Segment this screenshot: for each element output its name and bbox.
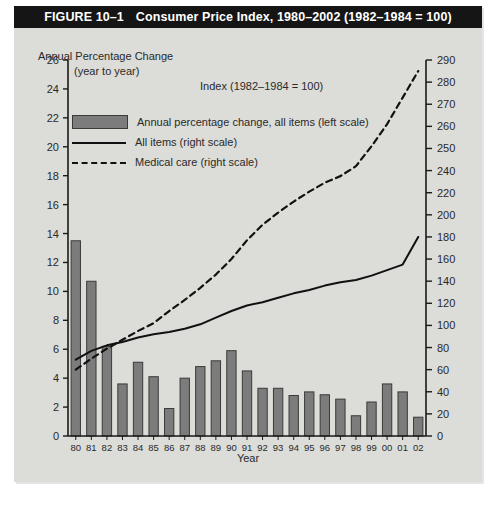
x-axis-tick-label: 90 <box>226 442 237 453</box>
bar <box>273 388 282 436</box>
x-axis-tick-label: 89 <box>211 442 222 453</box>
bar <box>165 409 174 436</box>
bar <box>71 241 80 436</box>
bar <box>87 281 96 436</box>
bar <box>133 362 142 436</box>
bar <box>102 346 111 436</box>
x-axis-tick-label: 87 <box>179 442 190 453</box>
bar <box>398 392 407 436</box>
medical-care-line <box>76 71 418 370</box>
bar <box>227 351 236 436</box>
right-axis-tick-label: 260 <box>437 120 455 132</box>
chart-svg: 02468101214161820222426 0204060801001201… <box>14 28 482 482</box>
right-axis-group: 0204060801001201401601802002202402502602… <box>426 54 455 442</box>
x-axis-tick-label: 99 <box>366 442 377 453</box>
left-axis-tick-label: 12 <box>47 256 59 268</box>
left-axis-tick-label: 24 <box>47 83 59 95</box>
bar <box>180 378 189 436</box>
bar <box>336 399 345 436</box>
x-axis-tick-label: 81 <box>86 442 97 453</box>
plot-area: Annual Percentage Change (year to year) … <box>14 28 482 482</box>
figure-title-text: FIGURE 10–1Consumer Price Index, 1980–20… <box>44 10 451 24</box>
bar <box>289 396 298 436</box>
right-axis-tick-label: 220 <box>437 187 455 199</box>
x-axis-tick-label: 93 <box>273 442 284 453</box>
bar <box>211 361 220 436</box>
left-axis-group: 02468101214161820222426 <box>47 54 68 442</box>
all-items-line <box>76 237 418 360</box>
right-axis-tick-label: 140 <box>437 275 455 287</box>
bar <box>242 371 251 436</box>
right-axis-tick-label: 180 <box>437 231 455 243</box>
left-axis-tick-label: 26 <box>47 54 59 66</box>
x-axis-tick-label: 00 <box>382 442 393 453</box>
bar <box>414 417 423 436</box>
right-axis-tick-label: 200 <box>437 209 455 221</box>
right-axis-tick-label: 120 <box>437 297 455 309</box>
lines-group <box>76 71 418 370</box>
bar <box>118 384 127 436</box>
bar <box>367 402 376 436</box>
figure-panel: FIGURE 10–1Consumer Price Index, 1980–20… <box>14 6 482 482</box>
x-axis-tick-label: 86 <box>164 442 175 453</box>
bar <box>305 392 314 436</box>
x-axis-group: 8081828384858687888990919293949596979899… <box>68 436 426 453</box>
x-axis-tick-label: 88 <box>195 442 206 453</box>
x-axis-tick-label: 82 <box>102 442 113 453</box>
bar <box>258 388 267 436</box>
right-axis-tick-label: 290 <box>437 54 455 66</box>
x-axis-tick-label: 84 <box>133 442 144 453</box>
right-axis-tick-label: 100 <box>437 319 455 331</box>
right-axis-tick-label: 240 <box>437 165 455 177</box>
figure-title-bar: FIGURE 10–1Consumer Price Index, 1980–20… <box>14 6 482 28</box>
right-axis-tick-label: 160 <box>437 253 455 265</box>
x-axis-tick-label: 01 <box>397 442 408 453</box>
bar <box>320 395 329 436</box>
bar <box>196 367 205 436</box>
figure-title: Consumer Price Index, 1980–2002 (1982–19… <box>136 10 452 24</box>
x-axis-tick-label: 97 <box>335 442 346 453</box>
right-axis-tick-label: 60 <box>437 364 449 376</box>
figure-number: FIGURE 10–1 <box>44 10 124 24</box>
right-axis-tick-label: 40 <box>437 386 449 398</box>
x-axis-tick-label: 91 <box>242 442 253 453</box>
left-axis-tick-label: 4 <box>53 372 59 384</box>
x-axis-tick-label: 95 <box>304 442 315 453</box>
right-axis-tick-label: 280 <box>437 76 455 88</box>
bar <box>382 384 391 436</box>
right-axis-tick-label: 250 <box>437 142 455 154</box>
x-axis-tick-label: 94 <box>288 442 299 453</box>
left-axis-tick-label: 22 <box>47 112 59 124</box>
left-axis-tick-label: 6 <box>53 343 59 355</box>
right-axis-tick-label: 270 <box>437 98 455 110</box>
x-axis-tick-label: 85 <box>148 442 159 453</box>
left-axis-tick-label: 18 <box>47 170 59 182</box>
right-axis-tick-label: 20 <box>437 408 449 420</box>
left-axis-tick-label: 0 <box>53 430 59 442</box>
x-axis-tick-label: 02 <box>413 442 424 453</box>
right-axis-tick-label: 0 <box>437 430 443 442</box>
bar <box>351 416 360 436</box>
left-axis-tick-label: 14 <box>47 228 59 240</box>
x-axis-tick-label: 92 <box>257 442 268 453</box>
left-axis-tick-label: 20 <box>47 141 59 153</box>
left-axis-tick-label: 2 <box>53 401 59 413</box>
bar <box>149 377 158 436</box>
right-axis-tick-label: 80 <box>437 342 449 354</box>
x-axis-tick-label: 96 <box>320 442 331 453</box>
left-axis-tick-label: 10 <box>47 285 59 297</box>
left-axis-tick-label: 8 <box>53 314 59 326</box>
left-axis-tick-label: 16 <box>47 199 59 211</box>
x-axis-tick-label: 83 <box>117 442 128 453</box>
x-axis-tick-label: 80 <box>70 442 81 453</box>
x-axis-tick-label: 98 <box>351 442 362 453</box>
